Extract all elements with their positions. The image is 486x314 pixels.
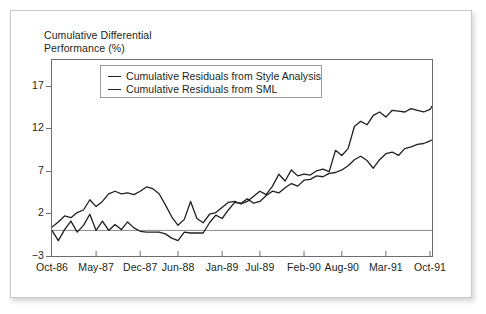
y-axis-tick-label: 17 (18, 79, 44, 91)
legend-item-sml: Cumulative Residuals from SML (108, 82, 277, 96)
y-axis-tick-label: 2 (18, 206, 44, 218)
figure-card: Cumulative Differential Performance (%) … (10, 10, 472, 298)
legend-item-label: Cumulative Residuals from Style Analysis (126, 70, 321, 82)
legend-line-icon (108, 89, 121, 90)
plot-area: Cumulative Residuals from Style Analysis… (51, 59, 433, 257)
y-axis-tick-label: 7 (18, 164, 44, 176)
legend-item-style-analysis: Cumulative Residuals from Style Analysis (108, 69, 321, 83)
series-line-sml (52, 101, 432, 241)
y-axis-tick-mark (46, 213, 51, 214)
legend-item-label: Cumulative Residuals from SML (126, 83, 277, 95)
y-axis-tick-label: −3 (18, 249, 44, 261)
y-axis-tick-mark (46, 86, 51, 87)
y-axis-tick-mark (46, 256, 51, 257)
y-axis-tick-mark (46, 171, 51, 172)
y-axis-tick-mark (46, 128, 51, 129)
legend-line-icon (108, 76, 121, 77)
y-axis-tick-label: 12 (18, 121, 44, 133)
x-axis-tick-label: Oct-91 (400, 261, 460, 273)
chart-legend: Cumulative Residuals from Style Analysis… (100, 65, 322, 98)
chart-title: Cumulative Differential Performance (%) (44, 29, 152, 55)
